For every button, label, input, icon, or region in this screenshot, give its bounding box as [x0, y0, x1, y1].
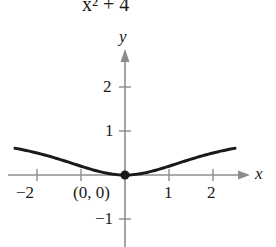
- y-axis-arrow-icon: [121, 49, 130, 62]
- y-axis-label: y: [119, 28, 127, 45]
- x-axis-label: x: [255, 165, 263, 182]
- x-tick-label-2: 2: [207, 184, 216, 201]
- y-tick-label-1: 1: [105, 122, 114, 139]
- y-tick-label-2: 2: [103, 78, 112, 95]
- graph-figure: [0, 0, 276, 247]
- header-fragment: x² + 4: [82, 0, 129, 14]
- x-tick-label-neg2: −2: [16, 184, 34, 201]
- x-axis-arrow-icon: [238, 171, 250, 180]
- x-tick-label-1: 1: [164, 184, 173, 201]
- y-tick-label-neg1: −1: [95, 210, 113, 227]
- point-label: (0, 0): [73, 184, 110, 201]
- origin-point: [121, 171, 130, 180]
